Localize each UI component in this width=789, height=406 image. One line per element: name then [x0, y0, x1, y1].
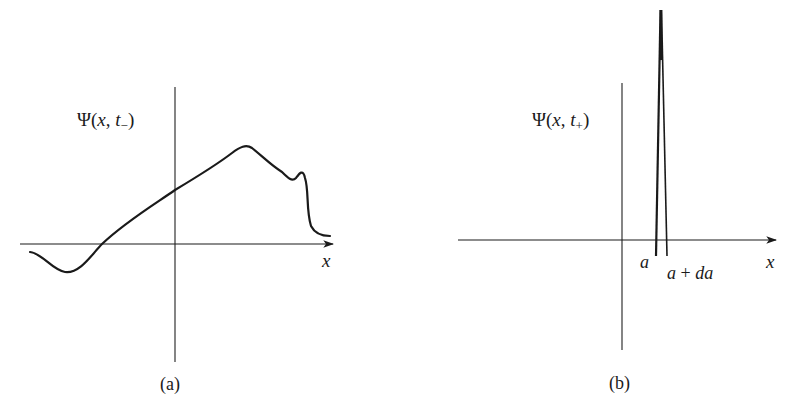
wavefunction-figure: Ψ(x, t−) x (a) Ψ(x, t+) a a + da x (b): [0, 0, 789, 406]
x-axis-label-b: x: [765, 251, 775, 272]
function-label-b: Ψ(x, t+): [532, 109, 589, 133]
caption-a: (a): [160, 374, 180, 395]
panel-a: Ψ(x, t−) x (a): [20, 87, 333, 395]
caption-b: (b): [609, 373, 630, 394]
delta-spike-b: [656, 10, 667, 256]
panel-b: Ψ(x, t+) a a + da x (b): [458, 10, 776, 394]
wavefunction-curve-a: [30, 146, 330, 272]
x-axis-label-a: x: [321, 250, 331, 271]
function-label-a: Ψ(x, t−): [77, 109, 134, 133]
tick-label-a: a: [640, 252, 649, 272]
tick-label-a-plus-da: a + da: [667, 263, 713, 283]
